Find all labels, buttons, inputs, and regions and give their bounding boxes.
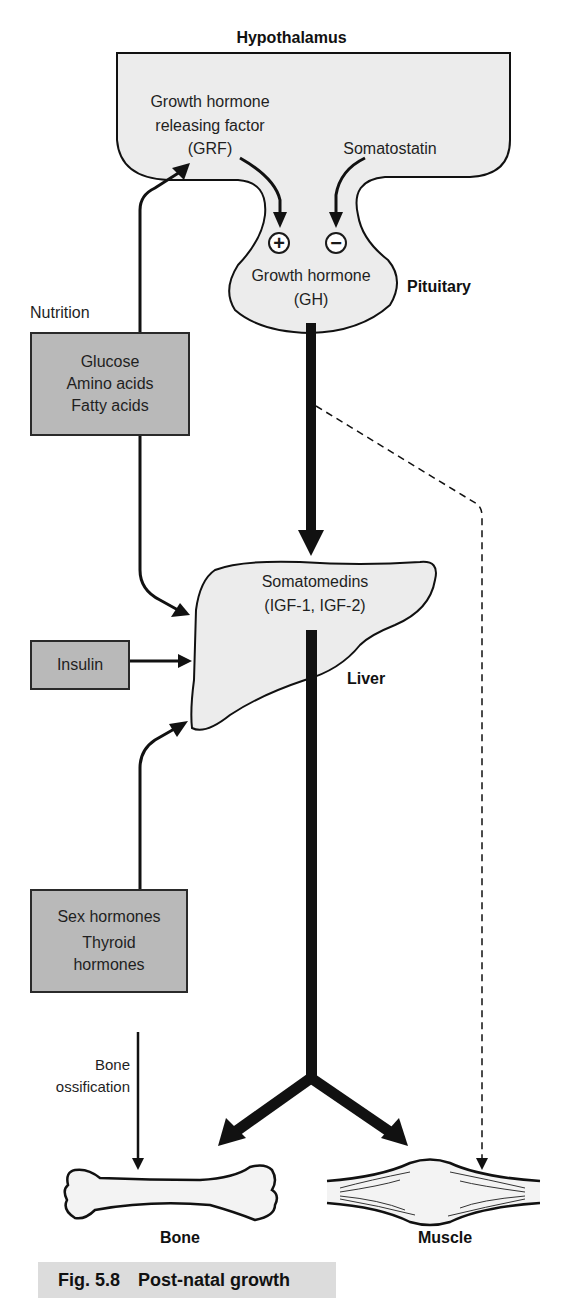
liver-label: Liver: [347, 669, 385, 689]
insulin-box: Insulin: [30, 640, 130, 690]
figure-number: Fig. 5.8: [58, 1270, 120, 1291]
nutrition-item: Amino acids: [66, 373, 153, 395]
gh-label-line1: Growth hormone: [222, 266, 400, 286]
hormones-box: Sex hormones Thyroid hormones: [30, 889, 188, 993]
bone-ossification-line2: ossification: [28, 1077, 130, 1097]
gh-label-line2: (GH): [222, 290, 400, 310]
hormones-line: Sex hormones: [57, 906, 160, 928]
bone-ossification-line1: Bone: [28, 1055, 130, 1075]
grf-label-line2: releasing factor: [130, 116, 290, 136]
grf-label-line1: Growth hormone: [130, 92, 290, 112]
figure-title: Post-natal growth: [138, 1270, 290, 1291]
nutrition-item: Fatty acids: [71, 395, 148, 417]
inhibit-minus-icon: −: [325, 232, 347, 254]
gh-to-muscle-dashed-arrow: [316, 406, 482, 1160]
somatostatin-label: Somatostatin: [320, 139, 460, 159]
nutrition-item: Glucose: [81, 351, 140, 373]
bone-icon: [65, 1166, 277, 1220]
muscle-label: Muscle: [400, 1228, 490, 1248]
somatomedins-label-line1: Somatomedins: [215, 572, 415, 592]
muscle-icon: [327, 1160, 540, 1226]
figure-caption: Fig. 5.8 Post-natal growth: [38, 1262, 336, 1298]
hypothalamus-label: Hypothalamus: [0, 28, 583, 48]
grf-label-line3: (GRF): [130, 139, 290, 159]
nutrition-to-liver-arrow: [140, 570, 178, 610]
bone-label: Bone: [140, 1228, 220, 1248]
insulin-label: Insulin: [57, 654, 103, 676]
nutrition-box: Glucose Amino acids Fatty acids: [30, 332, 190, 436]
hormones-line: hormones: [73, 954, 144, 976]
nutrition-label: Nutrition: [30, 303, 90, 323]
stimulate-plus-icon: +: [268, 232, 290, 254]
hormones-line: Thyroid: [82, 932, 135, 954]
pituitary-label: Pituitary: [407, 277, 471, 297]
somatomedins-label-line2: (IGF-1, IGF-2): [215, 596, 415, 616]
